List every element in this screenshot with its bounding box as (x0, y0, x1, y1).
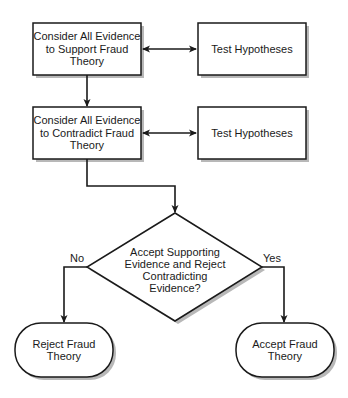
edge-label-yes: Yes (263, 252, 281, 264)
node-decision-label: Accept Supporting Evidence and Reject Co… (115, 245, 235, 295)
node-support-label: Consider All Evidence to Support Fraud T… (33, 23, 141, 75)
node-test2-label: Test Hypotheses (198, 107, 306, 159)
node-reject-label: Reject Fraud Theory (15, 323, 113, 377)
node-contradict-label: Consider All Evidence to Contradict Frau… (33, 107, 141, 159)
edge-decision-reject (64, 267, 87, 322)
edge-label-no: No (70, 252, 84, 264)
node-accept-label: Accept Fraud Theory (236, 323, 334, 377)
edge-decision-accept (262, 267, 284, 322)
node-test1-label: Test Hypotheses (198, 23, 306, 75)
edge-contradict-decision (87, 159, 175, 212)
